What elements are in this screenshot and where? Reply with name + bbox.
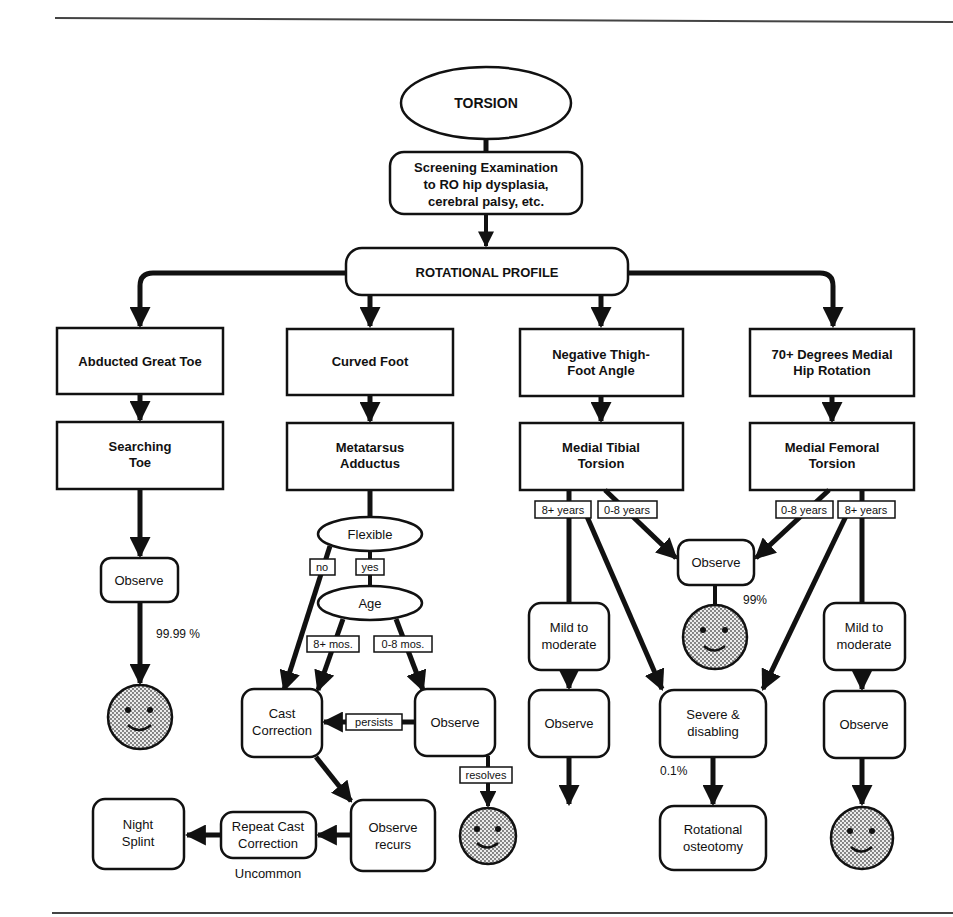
svg-text:Negative Thigh-: Negative Thigh-	[552, 347, 650, 362]
tibial-younger-label: 0-8 years	[598, 501, 657, 518]
svg-text:Foot Angle: Foot Angle	[567, 363, 634, 378]
rotational-profile-node: ROTATIONAL PROFILE	[346, 248, 628, 295]
svg-text:Night: Night	[123, 817, 154, 832]
svg-text:cerebral palsy, etc.: cerebral palsy, etc.	[428, 194, 544, 209]
svg-text:Medial Tibial: Medial Tibial	[562, 440, 640, 455]
svg-text:Toe: Toe	[129, 455, 151, 470]
svg-text:Correction: Correction	[238, 836, 298, 851]
smiley-face-icon	[831, 807, 893, 869]
mild-moderate-tibial-node: Mild to moderate	[529, 603, 609, 670]
svg-text:Splint: Splint	[122, 834, 155, 849]
svg-text:Mild to: Mild to	[845, 620, 883, 635]
age-decision: Age	[318, 586, 422, 620]
screening-node: Screening Examination to RO hip dysplasi…	[390, 152, 582, 214]
svg-text:Curved Foot: Curved Foot	[332, 354, 409, 369]
smiley-face-icon	[460, 808, 516, 864]
svg-text:ROTATIONAL PROFILE: ROTATIONAL PROFILE	[416, 265, 559, 280]
svg-text:to RO hip dysplasia,: to RO hip dysplasia,	[424, 177, 549, 192]
younger-age-label: 0-8 mos.	[374, 636, 432, 652]
svg-text:Metatarsus: Metatarsus	[336, 440, 405, 455]
svg-text:Searching: Searching	[109, 439, 172, 454]
cast-correction-node: Cast Correction	[242, 689, 322, 757]
svg-text:8+ years: 8+ years	[845, 504, 888, 516]
repeat-cast-correction-node: Repeat Cast Correction	[221, 812, 316, 858]
svg-text:moderate: moderate	[837, 637, 892, 652]
svg-text:Age: Age	[358, 596, 381, 611]
resolves-label: resolves	[460, 767, 512, 783]
top-rule	[55, 18, 953, 22]
finding-negative-thigh-foot-angle: Negative Thigh- Foot Angle	[520, 329, 683, 396]
svg-text:yes: yes	[361, 561, 379, 573]
diagnosis-medial-tibial-torsion: Medial Tibial Torsion	[520, 423, 683, 490]
svg-text:Torsion: Torsion	[578, 456, 625, 471]
svg-text:persists: persists	[355, 716, 393, 728]
femoral-younger-label: 0-8 years	[776, 501, 833, 518]
no-label: no	[310, 559, 335, 575]
severe-outcome-percent: 0.1%	[660, 764, 688, 778]
svg-text:Screening Examination: Screening Examination	[414, 160, 558, 175]
svg-text:0-8 mos.: 0-8 mos.	[382, 638, 425, 650]
svg-text:70+ Degrees Medial: 70+ Degrees Medial	[771, 347, 892, 362]
torsion-node: TORSION	[401, 67, 571, 139]
svg-text:Observe: Observe	[544, 716, 593, 731]
mild-moderate-femoral-node: Mild to moderate	[824, 603, 905, 670]
older-age-label: 8+ mos.	[307, 636, 359, 652]
foot-observe-node: Observe	[415, 689, 495, 756]
observe-tibial-node: Observe	[529, 690, 609, 757]
center-observe-node: Observe	[678, 540, 754, 585]
svg-text:Hip Rotation: Hip Rotation	[793, 363, 870, 378]
svg-text:Abducted Great Toe: Abducted Great Toe	[78, 354, 201, 369]
svg-text:Observe: Observe	[839, 717, 888, 732]
flexible-decision: Flexible	[318, 517, 422, 551]
toe-observe-node: Observe	[101, 558, 178, 602]
uncommon-label: Uncommon	[235, 866, 301, 881]
svg-text:8+ years: 8+ years	[542, 504, 585, 516]
finding-curved-foot: Curved Foot	[287, 329, 453, 395]
toe-outcome-percent: 99.99 %	[156, 627, 200, 641]
svg-text:0-8 years: 0-8 years	[604, 504, 650, 516]
svg-text:Observe: Observe	[368, 820, 417, 835]
finding-abducted-great-toe: Abducted Great Toe	[57, 328, 223, 394]
svg-text:Repeat Cast: Repeat Cast	[232, 819, 305, 834]
center-outcome-percent: 99%	[743, 593, 767, 607]
svg-text:Severe &: Severe &	[686, 707, 740, 722]
observe-femoral-node: Observe	[824, 691, 905, 758]
diagnosis-medial-femoral-torsion: Medial Femoral Torsion	[750, 423, 914, 490]
svg-text:resolves: resolves	[466, 769, 507, 781]
svg-text:Mild to: Mild to	[550, 620, 588, 635]
svg-text:Flexible: Flexible	[348, 527, 393, 542]
diagnosis-searching-toe: Searching Toe	[57, 422, 223, 489]
svg-text:osteotomy: osteotomy	[683, 839, 743, 854]
rotational-osteotomy-node: Rotational osteotomy	[660, 806, 766, 870]
svg-text:recurs: recurs	[375, 837, 412, 852]
svg-text:8+ mos.: 8+ mos.	[313, 638, 352, 650]
svg-text:Cast: Cast	[269, 706, 296, 721]
svg-text:0-8 years: 0-8 years	[781, 504, 827, 516]
observe-recurs-node: Observe recurs	[351, 800, 435, 871]
svg-text:Observe: Observe	[114, 573, 163, 588]
svg-text:moderate: moderate	[542, 637, 597, 652]
svg-text:Correction: Correction	[252, 723, 312, 738]
torsion-label: TORSION	[454, 95, 518, 111]
diagnosis-metatarsus-adductus: Metatarsus Adductus	[287, 423, 453, 490]
yes-label: yes	[356, 559, 384, 575]
svg-text:Rotational: Rotational	[684, 822, 743, 837]
tibial-older-label: 8+ years	[535, 501, 591, 518]
svg-text:Torsion: Torsion	[809, 456, 856, 471]
smiley-face-icon	[108, 685, 172, 749]
persists-label: persists	[346, 714, 402, 730]
svg-text:Observe: Observe	[430, 715, 479, 730]
smiley-face-icon	[683, 605, 747, 669]
night-splint-node: Night Splint	[93, 799, 184, 869]
svg-text:Medial Femoral: Medial Femoral	[785, 440, 880, 455]
femoral-older-label: 8+ years	[838, 501, 895, 518]
svg-text:no: no	[316, 561, 328, 573]
severe-disabling-node: Severe & disabling	[660, 690, 766, 757]
svg-text:Adductus: Adductus	[340, 456, 400, 471]
finding-medial-hip-rotation: 70+ Degrees Medial Hip Rotation	[750, 329, 914, 396]
svg-text:disabling: disabling	[687, 724, 738, 739]
svg-text:Observe: Observe	[691, 555, 740, 570]
